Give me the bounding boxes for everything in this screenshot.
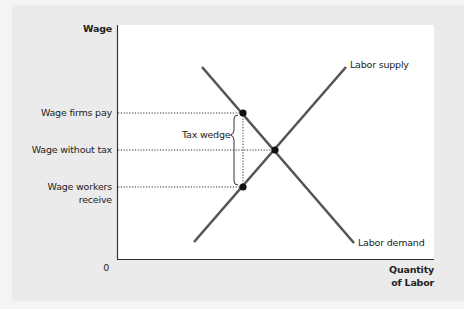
tax-wedge-brace-icon bbox=[231, 115, 239, 185]
point-equilibrium bbox=[271, 146, 278, 153]
label-wage-workers-receive-line2: receive bbox=[0, 194, 112, 205]
labor-demand-label: Labor demand bbox=[358, 237, 424, 248]
label-wage-firms-pay: Wage firms pay bbox=[0, 107, 112, 118]
x-axis-label-line2: of Labor bbox=[360, 277, 434, 288]
tax-wedge-label: Tax wedge bbox=[182, 129, 230, 140]
label-wage-workers-receive-line1: Wage workers bbox=[0, 181, 112, 192]
point-workers-receive bbox=[239, 183, 246, 190]
y-axis-label: Wage bbox=[60, 23, 112, 34]
labor-supply-label: Labor supply bbox=[350, 59, 409, 70]
labor-supply-curve bbox=[194, 67, 346, 242]
labor-demand-curve bbox=[202, 67, 354, 243]
label-wage-without-tax: Wage without tax bbox=[0, 144, 112, 155]
point-firms-pay bbox=[239, 109, 246, 116]
x-axis-label-line1: Quantity bbox=[360, 264, 434, 275]
origin-label: 0 bbox=[60, 262, 109, 273]
